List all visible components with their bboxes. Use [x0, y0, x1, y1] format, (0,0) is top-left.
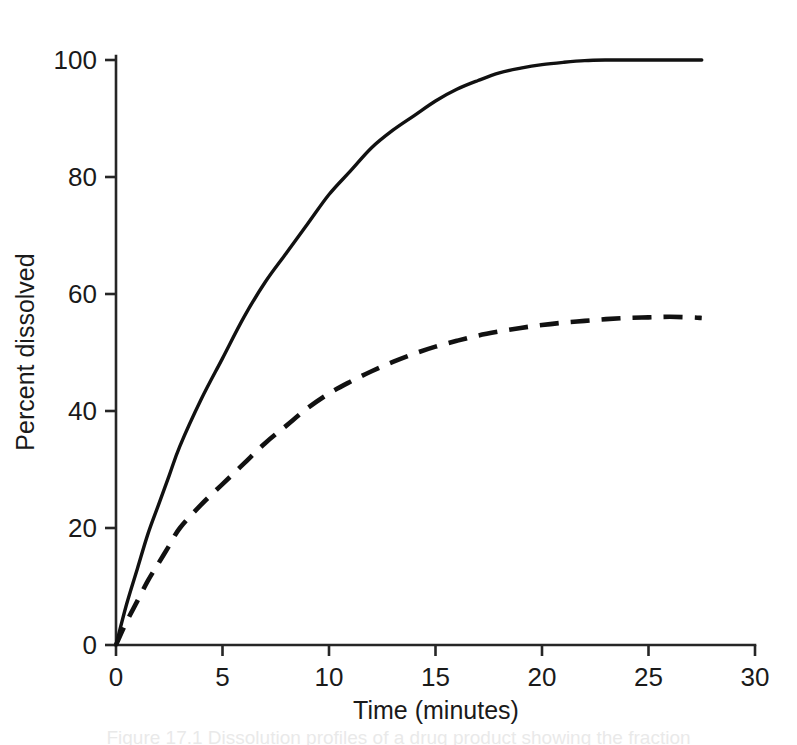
x-tick-label-10: 10: [315, 662, 344, 692]
x-tick-label-30: 30: [741, 662, 770, 692]
x-tick-label-0: 0: [109, 662, 123, 692]
x-axis-title: Time (minutes): [353, 696, 519, 724]
series-solid-curve: [116, 60, 702, 645]
y-tick-label-0: 0: [83, 630, 97, 660]
x-tick-label-15: 15: [421, 662, 450, 692]
y-tick-label-60: 60: [68, 279, 97, 309]
x-axis-ticks: 051015202530: [109, 645, 770, 692]
y-tick-label-20: 20: [68, 513, 97, 543]
line-chart: 020406080100 051015202530 Time (minutes)…: [0, 0, 797, 745]
x-tick-label-20: 20: [528, 662, 557, 692]
x-tick-label-5: 5: [215, 662, 229, 692]
y-tick-label-100: 100: [54, 45, 97, 75]
figure-caption: Figure 17.1 Dissolution profiles of a dr…: [0, 727, 797, 745]
y-tick-label-80: 80: [68, 162, 97, 192]
series-dashed-curve: [116, 317, 702, 645]
x-tick-label-25: 25: [634, 662, 663, 692]
y-axis-title: Percent dissolved: [11, 253, 39, 450]
y-tick-label-40: 40: [68, 396, 97, 426]
y-axis-ticks: 020406080100: [54, 45, 116, 660]
dissolution-profile-figure: 020406080100 051015202530 Time (minutes)…: [0, 0, 797, 745]
